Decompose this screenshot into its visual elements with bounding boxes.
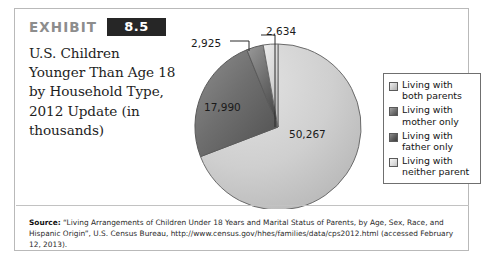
- legend-swatch-icon: [389, 133, 398, 142]
- legend-item-neither-parent: Living with neither parent: [389, 155, 476, 177]
- legend-swatch-icon: [389, 158, 398, 167]
- legend-label: Living with neither parent: [402, 155, 476, 177]
- pie-value-both-parents: 50,267: [289, 128, 326, 140]
- legend-label: Living with mother only: [402, 104, 476, 126]
- legend-swatch-icon: [389, 107, 398, 116]
- legend-label: Living with both parents: [402, 79, 476, 101]
- legend-item-mother-only: Living with mother only: [389, 104, 476, 126]
- exhibit-title: U.S. Children Younger Than Age 18 by Hou…: [29, 44, 179, 140]
- pie-value-neither-parent: 2,634: [266, 25, 296, 37]
- legend-swatch-icon: [389, 82, 398, 91]
- exhibit-label: EXHIBIT: [29, 19, 97, 35]
- exhibit-header: EXHIBIT 8.5: [29, 17, 166, 36]
- source-divider: [16, 205, 469, 206]
- pie-slices: [195, 44, 361, 209]
- leader-line-father-only: [230, 41, 249, 51]
- pie-value-father-only: 2,925: [191, 37, 221, 49]
- exhibit-number-badge: 8.5: [107, 18, 166, 36]
- legend-item-father-only: Living with father only: [389, 130, 476, 152]
- source-note: Source: “Living Arrangements of Children…: [29, 217, 457, 250]
- legend-item-both-parents: Living with both parents: [389, 79, 476, 101]
- legend-label: Living with father only: [402, 130, 476, 152]
- chart-legend: Living with both parents Living with mot…: [383, 73, 481, 184]
- exhibit-panel: EXHIBIT 8.5 U.S. Children Younger Than A…: [14, 8, 469, 251]
- source-label: Source:: [29, 218, 61, 227]
- pie-value-mother-only: 17,990: [204, 101, 241, 113]
- source-text: “Living Arrangements of Children Under 1…: [29, 218, 453, 249]
- pie-chart: 50,267 17,990 2,925 2,634: [183, 17, 373, 209]
